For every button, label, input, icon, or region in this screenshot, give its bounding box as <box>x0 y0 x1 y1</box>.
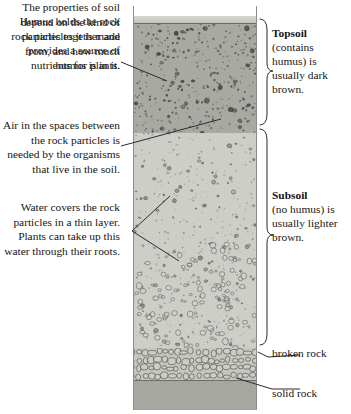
label-topsoil: Topsoil (contains humus) is usually dark… <box>272 26 350 96</box>
note-soil-properties: The properties of soil depend on the kin… <box>2 0 120 73</box>
topsoil-layer <box>134 24 256 133</box>
soil-profile-figure: Humus holds the rock particles together … <box>0 0 351 414</box>
label-subsoil: Subsoil (no humus) is usually lighter br… <box>272 188 350 244</box>
label-topsoil-body: (contains humus) is usually dark brown. <box>272 41 328 95</box>
subsoil-layer <box>134 133 256 348</box>
sky-band <box>134 6 256 16</box>
label-topsoil-heading: Topsoil <box>272 26 350 40</box>
soil-column <box>133 6 257 410</box>
annotation-column-left: Humus holds the rock particles together … <box>0 0 126 414</box>
label-column-right: Topsoil (contains humus) is usually dark… <box>272 0 351 414</box>
label-broken-rock: broken rock <box>272 346 350 360</box>
broken-rock-layer <box>134 348 256 380</box>
note-air: Air in the spaces between the rock parti… <box>2 118 120 176</box>
label-subsoil-body: (no humus) is usually lighter brown. <box>272 203 338 243</box>
label-solid-rock: solid rock <box>272 386 350 400</box>
topsoil-particles <box>134 24 256 133</box>
broken-rock-fragments <box>134 348 256 380</box>
solid-rock-layer <box>134 380 256 410</box>
subsoil-particles <box>134 133 256 348</box>
note-water: Water covers the rock particles in a thi… <box>2 200 120 258</box>
label-subsoil-heading: Subsoil <box>272 188 350 202</box>
